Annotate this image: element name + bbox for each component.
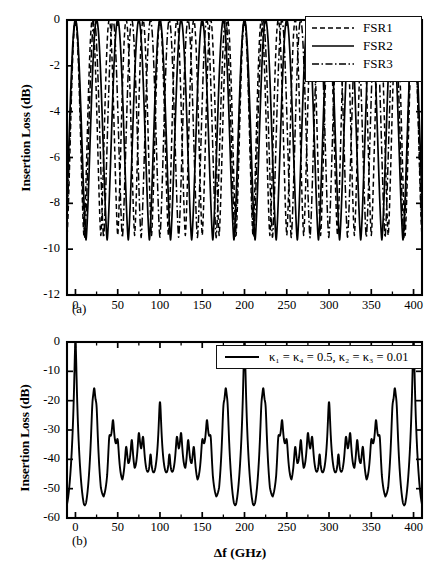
x-axis-tick-label: 100 [138, 298, 182, 313]
x-axis-tick-label: 350 [349, 298, 393, 313]
legend-label-fsr3: FSR3 [356, 56, 393, 72]
legend-label-coupling: κ₁ = κ₄ = 0.5, κ₂ = κ₃ = 0.01 [262, 350, 409, 365]
y-axis-tick-label: -6 [10, 150, 60, 165]
y-axis-tick-label: -20 [4, 393, 60, 408]
y-axis-tick-label: 0 [10, 12, 60, 27]
x-axis-tick-label: 50 [96, 298, 140, 313]
legend-item-fsr1: FSR1 [310, 19, 417, 37]
x-axis-tick-label: 0 [53, 520, 97, 535]
x-axis-tick-label: 150 [180, 520, 224, 535]
x-axis-tick-label: 400 [392, 520, 436, 535]
x-axis-tick-label: 200 [223, 298, 267, 313]
panel-b-legend: κ₁ = κ₄ = 0.5, κ₂ = κ₃ = 0.01 [216, 345, 422, 369]
y-axis-tick-label: 0 [4, 334, 60, 349]
solid-line-icon [310, 39, 356, 53]
x-axis-tick-label: 250 [265, 298, 309, 313]
x-axis-tick-label: 300 [307, 298, 351, 313]
y-axis-tick-label: -60 [4, 510, 60, 525]
y-axis-tick-label: -40 [4, 451, 60, 466]
y-axis-tick-label: -30 [4, 422, 60, 437]
dash-dot-line-icon [310, 57, 356, 71]
y-axis-tick-label: -12 [10, 287, 60, 302]
y-axis-tick-label: -4 [10, 104, 60, 119]
solid-line-icon [222, 350, 262, 364]
x-axis-tick-label: 250 [265, 520, 309, 535]
panel-b: Insertion Loss (dB) κ₁ = κ₄ = 0.5, κ₂ = … [0, 320, 448, 567]
x-axis-tick-label: 0 [53, 298, 97, 313]
panel-b-tag: (b) [72, 533, 87, 549]
x-axis-tick-label: 150 [180, 298, 224, 313]
y-axis-tick-label: -10 [4, 363, 60, 378]
x-axis-tick-label: 400 [392, 298, 436, 313]
panel-a-y-axis-label: Insertion Loss (dB) [18, 58, 34, 218]
x-axis-tick-label: 100 [138, 520, 182, 535]
y-axis-tick-label: -50 [4, 481, 60, 496]
panel-a: Insertion Loss (dB) FSR1 FSR2 FSR3 [0, 0, 448, 320]
y-axis-tick-label: -2 [10, 58, 60, 73]
legend-label-fsr1: FSR1 [356, 20, 393, 36]
panel-a-legend: FSR1 FSR2 FSR3 [305, 16, 422, 82]
dashed-line-icon [310, 21, 356, 35]
x-axis-tick-label: 200 [223, 520, 267, 535]
y-axis-tick-label: -10 [10, 241, 60, 256]
figure-container: Insertion Loss (dB) FSR1 FSR2 FSR3 [0, 0, 448, 567]
x-axis-tick-label: 50 [96, 520, 140, 535]
legend-item-fsr3: FSR3 [310, 55, 417, 73]
legend-label-fsr2: FSR2 [356, 38, 393, 54]
x-axis-label: Δf (GHz) [160, 545, 320, 561]
x-axis-tick-label: 300 [307, 520, 351, 535]
legend-item-fsr2: FSR2 [310, 37, 417, 55]
y-axis-tick-label: -8 [10, 195, 60, 210]
x-axis-tick-label: 350 [349, 520, 393, 535]
